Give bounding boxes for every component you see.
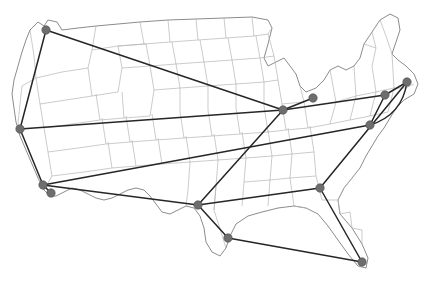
network-edge-washington-to-philadelphia <box>370 95 385 125</box>
network-node-seattle[interactable]: Seattle <box>42 26 50 34</box>
network-edge-houston-to-miami <box>228 238 362 262</box>
network-edge-los-angeles-to-dallas <box>43 185 198 205</box>
network-node-miami[interactable]: Miami <box>358 258 366 266</box>
network-node-washington[interactable]: Washington DC <box>366 121 374 129</box>
network-node-atlanta[interactable]: Atlanta <box>316 184 324 192</box>
network-node-san-francisco[interactable]: San Francisco <box>16 125 24 133</box>
network-map-figure: SeattleSan FranciscoLos AngelesSan Diego… <box>0 0 432 290</box>
network-node-dallas[interactable]: Dallas <box>194 201 202 209</box>
network-node-houston[interactable]: Houston <box>224 234 232 242</box>
network-edge-los-angeles-to-washington <box>43 125 370 185</box>
network-node-san-diego[interactable]: San Diego <box>47 189 55 197</box>
network-edge-dallas-to-chicago <box>198 110 283 205</box>
network-node-chicago[interactable]: Chicago <box>279 106 287 114</box>
network-edge-atlanta-to-miami <box>320 188 362 262</box>
network-node-detroit[interactable]: Detroit <box>309 94 317 102</box>
map-canvas: SeattleSan FranciscoLos AngelesSan Diego… <box>0 0 432 290</box>
land-layer <box>12 14 418 268</box>
network-edge-san-francisco-to-chicago <box>20 110 283 129</box>
network-edge-layer <box>20 30 407 262</box>
network-node-layer: SeattleSan FranciscoLos AngelesSan Diego… <box>16 26 411 266</box>
network-edge-dallas-to-atlanta <box>198 188 320 205</box>
network-node-new-york[interactable]: New York <box>403 78 411 86</box>
network-edge-seattle-to-chicago <box>46 30 283 110</box>
network-node-los-angeles[interactable]: Los Angeles <box>39 181 47 189</box>
network-edge-san-francisco-to-los-angeles <box>20 129 43 185</box>
network-edge-dallas-to-houston <box>198 205 228 238</box>
state-borders <box>18 17 414 248</box>
network-node-philadelphia[interactable]: Philadelphia <box>381 91 389 99</box>
